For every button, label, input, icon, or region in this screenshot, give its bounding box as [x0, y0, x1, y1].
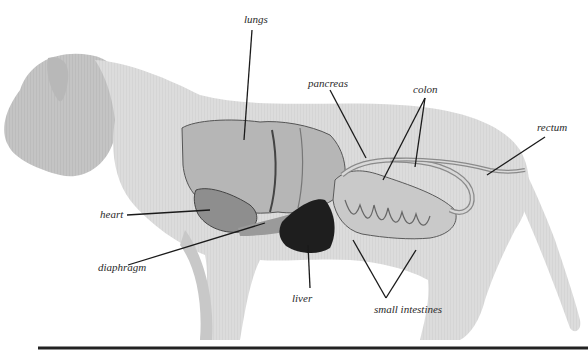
label-diaphragm: diaphragm [98, 262, 146, 273]
label-lungs: lungs [244, 14, 268, 25]
label-rectum: rectum [537, 122, 567, 133]
anatomy-diagram: lungs pancreas colon rectum heart diaphr… [0, 0, 588, 359]
label-pancreas: pancreas [308, 78, 348, 89]
label-heart: heart [100, 209, 123, 220]
dog-illustration [0, 0, 588, 359]
label-liver: liver [292, 293, 312, 304]
label-small-intestines: small intestines [374, 304, 442, 315]
label-colon: colon [413, 84, 437, 95]
